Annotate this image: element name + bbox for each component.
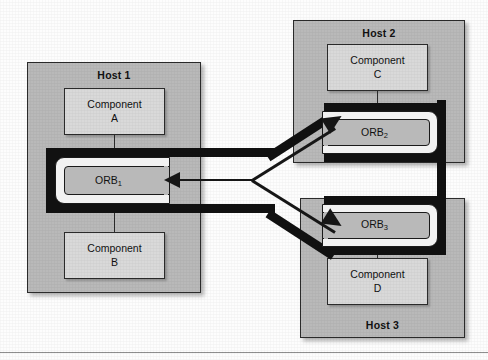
component-a-name: Component <box>87 98 141 111</box>
orb-label-orb2: ORB2 <box>361 126 388 138</box>
component-d-letter: D <box>374 282 382 295</box>
component-c-letter: C <box>374 68 382 81</box>
bus-orb1-to-orb3-horizontal <box>160 204 275 213</box>
orb2-name: ORB <box>361 126 384 138</box>
arrowhead-to-orb1 <box>164 172 180 188</box>
orb1-index: 1 <box>118 179 122 188</box>
thin-line-junction-to-orb1 <box>178 179 254 182</box>
host-label-host2: Host 2 <box>294 27 464 39</box>
component-box-a: Component A <box>64 88 165 135</box>
page-bottom-rule <box>0 352 488 353</box>
component-b-letter: B <box>111 256 118 269</box>
component-c-name: Component <box>350 54 404 67</box>
host-label-host1: Host 1 <box>28 69 200 81</box>
component-box-d: Component D <box>327 258 428 305</box>
orb-label-orb3: ORB3 <box>361 218 388 230</box>
orb-label-orb1: ORB1 <box>95 174 122 186</box>
orb3-name: ORB <box>361 218 384 230</box>
component-a-letter: A <box>111 112 118 125</box>
stub-component-b-to-orb1 <box>114 212 115 233</box>
component-box-b: Component B <box>64 232 165 279</box>
host-label-host3: Host 3 <box>301 319 464 331</box>
component-d-name: Component <box>350 268 404 281</box>
component-b-name: Component <box>87 242 141 255</box>
orb1-name: ORB <box>95 174 118 186</box>
diagram-canvas: Host 1 Component A Component B Host 2 Co… <box>0 0 488 360</box>
orb2-index: 2 <box>384 131 388 140</box>
component-box-c: Component C <box>327 44 428 91</box>
orb3-index: 3 <box>384 223 388 232</box>
bus-orb1-to-orb2-horizontal <box>160 148 275 157</box>
